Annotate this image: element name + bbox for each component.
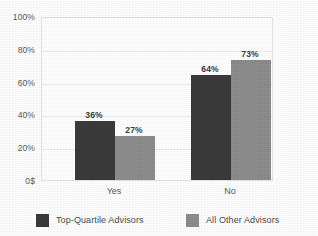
plot-area [41, 17, 273, 181]
bar-chart: 100% 80% 60% 40% 20% 0$ 36% 27% 64% 73% … [0, 0, 318, 236]
y-axis-tick-0: 0$ [25, 176, 35, 186]
data-label-no-top-quartile-advisors: 64% [190, 64, 230, 74]
legend-label-top-quartile-advisors: Top-Quartile Advisors [56, 215, 144, 225]
data-label-yes-all-other-advisors: 27% [114, 125, 154, 135]
x-axis-label-yes: Yes [74, 186, 154, 196]
x-axis-label-no: No [190, 186, 270, 196]
y-axis-tick-60: 60% [18, 78, 35, 88]
legend: Top-Quartile Advisors All Other Advisors [0, 212, 318, 232]
legend-item-all-other-advisors[interactable]: All Other Advisors [186, 212, 279, 228]
legend-swatch-icon-all-other-advisors [186, 214, 199, 227]
bar-yes-top-quartile-advisors[interactable] [75, 121, 115, 180]
bar-no-top-quartile-advisors[interactable] [191, 75, 231, 180]
y-axis: 100% 80% 60% 40% 20% 0$ [0, 0, 40, 236]
legend-swatch-icon-top-quartile-advisors [36, 214, 49, 227]
legend-label-all-other-advisors: All Other Advisors [206, 215, 279, 225]
y-axis-tick-80: 80% [18, 45, 35, 55]
bar-yes-all-other-advisors[interactable] [115, 136, 155, 180]
bar-no-all-other-advisors[interactable] [231, 60, 271, 180]
y-axis-tick-20: 20% [18, 143, 35, 153]
legend-item-top-quartile-advisors[interactable]: Top-Quartile Advisors [36, 212, 144, 228]
data-label-no-all-other-advisors: 73% [230, 49, 270, 59]
y-axis-tick-100: 100% [13, 12, 35, 22]
y-axis-tick-40: 40% [18, 110, 35, 120]
bars-layer [42, 18, 272, 180]
data-label-yes-top-quartile-advisors: 36% [74, 110, 114, 120]
